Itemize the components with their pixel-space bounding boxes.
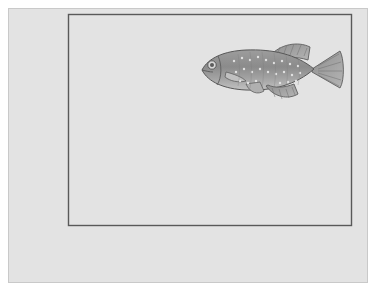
pupil xyxy=(210,63,214,67)
caudal-fin xyxy=(312,51,343,88)
chart-plot-area xyxy=(0,0,380,293)
killifish-illustration xyxy=(188,36,348,102)
